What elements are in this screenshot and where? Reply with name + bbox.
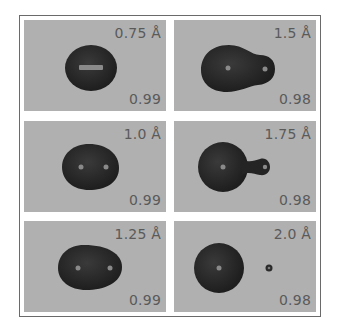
- nucleus-icon: [108, 266, 113, 271]
- nucleus-icon: [79, 165, 84, 170]
- score-label: 0.98: [279, 293, 311, 307]
- panel-1-25: 1.25 Å 0.99: [24, 221, 166, 312]
- panel-1-0: 1.0 Å 0.99: [24, 121, 166, 212]
- score-label: 0.99: [129, 193, 161, 207]
- distance-label: 1.75 Å: [265, 127, 311, 141]
- distance-label: 0.75 Å: [115, 26, 161, 40]
- distance-label: 1.25 Å: [115, 227, 161, 241]
- nucleus-icon: [268, 267, 271, 270]
- distance-label: 1.5 Å: [274, 26, 311, 40]
- panel-0-75: 0.75 Å 0.99: [24, 20, 166, 111]
- panel-2-0: 2.0 Å 0.98: [174, 221, 316, 312]
- distance-label: 2.0 Å: [274, 227, 311, 241]
- nucleus-icon: [104, 165, 109, 170]
- score-label: 0.98: [279, 193, 311, 207]
- panel-1-75: 1.75 Å 0.98: [174, 121, 316, 212]
- score-label: 0.98: [279, 92, 311, 106]
- nucleus-icon: [76, 266, 81, 271]
- distance-label: 1.0 Å: [124, 127, 161, 141]
- nucleus-icon: [263, 67, 268, 72]
- score-label: 0.99: [129, 293, 161, 307]
- nucleus-icon: [221, 165, 226, 170]
- panel-1-5: 1.5 Å 0.98: [174, 20, 316, 111]
- score-label: 0.99: [129, 92, 161, 106]
- nucleus-icon: [217, 266, 222, 271]
- nucleus-icon: [226, 66, 231, 71]
- nucleus-icon: [79, 65, 103, 70]
- nucleus-icon: [263, 165, 267, 169]
